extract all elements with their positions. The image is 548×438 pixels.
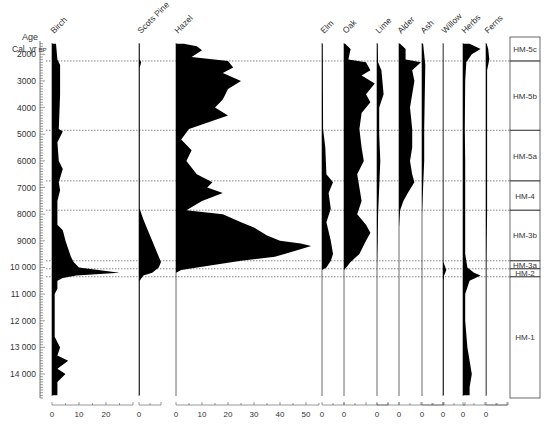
curve-fill [443,44,446,396]
pollen-diagram: Age Cal. yrBP 20003000400050006000700080… [0,0,548,438]
taxon-label: Lime [373,15,393,35]
taxon-label: Birch [48,14,69,35]
curve-fill [377,44,384,396]
taxon-scots-pine: Scots Pine0 [135,0,171,419]
taxon-label: Elm [318,18,335,35]
curve-fill [139,44,161,396]
curve-fill [486,44,489,396]
curve-fill [322,44,333,396]
age-tick-label: 2000 [17,49,36,59]
curve-fill [463,44,481,396]
taxon-label: Ash [418,18,436,36]
age-tick-label: 3000 [17,76,36,86]
age-axis-title: Age [22,32,38,42]
age-tick-label: 4000 [17,103,36,113]
age-tick-label: 14 000 [10,369,36,379]
x-tick-label: 0 [441,410,446,419]
curve-fill [176,44,311,396]
curve-fill [399,44,421,396]
taxon-birch: Birch01020 [48,14,133,419]
zone-column: HM-5cHM-5bHM-5aHM-4HM-3bHM-3aHM-2HM-1 [510,37,540,398]
zone-label: HM-4 [515,192,535,201]
taxon-hazel: Hazel01020304050 [172,13,319,419]
x-tick-label: 40 [276,410,285,419]
x-tick-label: 0 [174,410,179,419]
taxon-label: Ferns [482,13,504,35]
zone-label: HM-5a [513,152,538,161]
x-tick-label: 0 [420,410,425,419]
taxon-label: Oak [340,17,359,36]
zone-label: HM-5c [513,45,537,54]
taxon-lime: Lime0 [373,15,399,419]
age-tick-label: 9000 [17,236,36,246]
x-tick-label: 0 [320,410,325,419]
age-tick-label: 5000 [17,129,36,139]
curve-fill [344,44,375,396]
taxon-label: Alder [395,14,416,35]
taxon-ash: Ash0 [418,18,444,419]
taxon-label: Scots Pine [135,0,171,35]
age-axis: 2000300040005000600070008000900010 00011… [10,41,45,398]
x-tick-label: 0 [342,410,347,419]
x-tick-label: 0 [461,410,466,419]
x-tick-label: 10 [75,410,84,419]
curve-fill [52,44,120,396]
x-tick-label: 50 [302,410,311,419]
taxa-curves: Birch01020Scots Pine0Hazel01020304050Elm… [48,0,508,419]
x-tick-label: 20 [102,410,111,419]
zone-label: HM-5b [513,92,538,101]
age-tick-label: 6000 [17,156,36,166]
taxon-label: Herbs [459,12,482,35]
x-tick-label: 0 [137,410,142,419]
age-tick-label: 12 000 [10,316,36,326]
taxon-elm: Elm0 [318,18,344,419]
x-tick-label: 0 [50,410,55,419]
x-tick-label: 20 [224,410,233,419]
age-tick-label: 10 000 [10,262,36,272]
zone-label: HM-3b [513,231,538,240]
curve-fill [422,44,425,396]
age-tick-label: 11 000 [11,289,37,299]
taxon-herbs: Herbs0 [459,12,507,419]
age-tick-label: 8000 [17,209,36,219]
x-tick-label: 0 [397,410,402,419]
taxon-label: Willow [439,10,464,35]
x-tick-label: 10 [198,410,207,419]
x-tick-label: 0 [375,410,380,419]
zone-label: HM-1 [515,333,535,342]
taxon-willow: Willow0 [439,10,465,419]
age-tick-label: 7000 [17,183,36,193]
taxon-alder: Alder0 [395,14,443,419]
x-tick-label: 30 [250,410,259,419]
taxon-label: Hazel [172,13,195,36]
taxon-ferns: Ferns0 [482,13,508,419]
age-tick-label: 13 000 [10,342,36,352]
x-tick-label: 0 [484,410,489,419]
